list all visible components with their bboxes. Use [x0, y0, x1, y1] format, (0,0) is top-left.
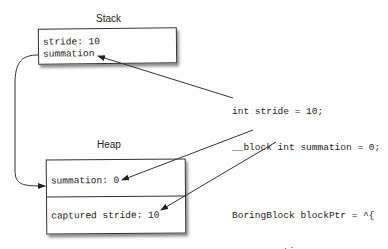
- block-summation-to-heap-arrow: [122, 130, 253, 180]
- block-stride-to-captured-arrow: [161, 142, 276, 210]
- block-var-to-stack-arrow: [98, 56, 233, 98]
- connector-arrows: [0, 0, 388, 249]
- stack-to-heap-arrow: [15, 55, 45, 186]
